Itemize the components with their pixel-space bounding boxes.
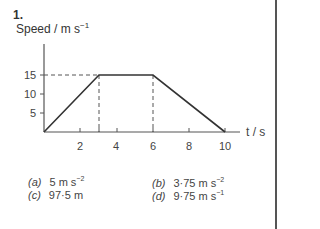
answer-a: (a)5 m s−2 [28, 175, 84, 188]
svg-text:15: 15 [24, 69, 36, 81]
y-ticks: 15 10 5 [24, 69, 44, 119]
answer-b: (b)3·75 m s−2 [152, 176, 224, 189]
svg-text:8: 8 [186, 140, 192, 152]
svg-text:4: 4 [113, 140, 119, 152]
right-border [275, 0, 277, 229]
svg-text:10: 10 [219, 140, 231, 152]
svg-text:2: 2 [77, 140, 83, 152]
svg-text:5: 5 [30, 107, 36, 119]
answer-d: (d)9·75 m s−1 [152, 189, 224, 202]
speed-line [44, 75, 225, 132]
answer-c: (c)97·5 m [28, 189, 83, 201]
svg-text:6: 6 [150, 140, 156, 152]
x-axis-label: t / s [246, 125, 265, 139]
dashed-guides [44, 75, 153, 132]
svg-text:10: 10 [24, 88, 36, 100]
